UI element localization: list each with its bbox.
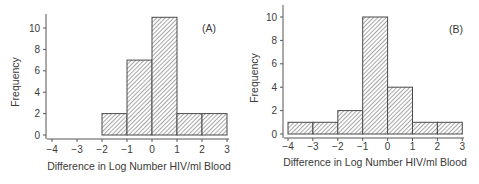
x-axis-title-b: Difference in Log Number HIV/ml Blood	[283, 156, 467, 168]
x-tick-label: −1	[121, 144, 133, 155]
x-tick-label: 2	[435, 141, 441, 152]
y-tick-label: 10	[29, 23, 41, 34]
x-tick-label: 0	[385, 141, 391, 152]
y-tick-label: 6	[34, 65, 40, 76]
histogram-bar	[313, 122, 338, 134]
x-tick-label: 0	[149, 144, 155, 155]
histogram-bar	[437, 122, 462, 134]
histogram-bar	[127, 60, 152, 135]
x-tick-label: −2	[332, 141, 344, 152]
histogram-panel-a: 0246810 −4−3−2−10123 (A) Frequency Diffe…	[9, 14, 231, 172]
histogram-bar	[388, 87, 413, 134]
histogram-panel-b: 0246810 −4−3−2−10123 (B) Frequency Diffe…	[248, 5, 467, 168]
x-tick-label: −3	[307, 141, 319, 152]
y-tick-label: 8	[34, 44, 40, 55]
x-tick-label: 1	[410, 141, 416, 152]
x-tick-label: −4	[282, 141, 294, 152]
histogram-bar	[363, 17, 388, 134]
histogram-bar	[338, 111, 363, 134]
histogram-figure: 0246810 −4−3−2−10123 (A) Frequency Diffe…	[0, 0, 479, 184]
x-axis-title-a: Difference in Log Number HIV/ml Blood	[47, 160, 231, 172]
histogram-bar	[177, 114, 202, 135]
x-tick-label: 3	[460, 141, 466, 152]
y-tick-label: 0	[34, 130, 40, 141]
histogram-bar	[102, 114, 127, 135]
bars-b	[288, 17, 462, 134]
histogram-bar	[202, 114, 227, 135]
bars-a	[102, 17, 227, 135]
y-tick-label: 4	[34, 87, 40, 98]
x-axis-b: −4−3−2−10123	[282, 138, 465, 152]
histogram-bar	[288, 122, 313, 134]
y-axis-b: 0246810	[266, 5, 283, 140]
x-tick-label: −1	[357, 141, 369, 152]
y-tick-label: 2	[271, 105, 277, 116]
x-tick-label: 3	[224, 144, 230, 155]
y-tick-label: 4	[271, 82, 277, 93]
y-tick-label: 8	[271, 35, 277, 46]
y-tick-label: 0	[271, 129, 277, 140]
histogram-bar	[413, 122, 438, 134]
histogram-bar	[152, 17, 177, 135]
y-axis-title-b: Frequency	[248, 52, 260, 102]
y-axis-title-a: Frequency	[9, 56, 21, 106]
x-tick-label: 1	[174, 144, 180, 155]
y-tick-label: 10	[266, 12, 278, 23]
y-tick-label: 2	[34, 108, 40, 119]
x-tick-label: −2	[96, 144, 108, 155]
y-axis-a: 0246810	[29, 14, 46, 141]
y-tick-label: 6	[271, 58, 277, 69]
panel-label-b: (B)	[449, 23, 463, 35]
x-tick-label: 2	[199, 144, 205, 155]
x-axis-a: −4−3−2−10123	[46, 139, 230, 155]
x-tick-label: −4	[46, 144, 58, 155]
panel-label-a: (A)	[202, 22, 216, 34]
x-tick-label: −3	[71, 144, 83, 155]
